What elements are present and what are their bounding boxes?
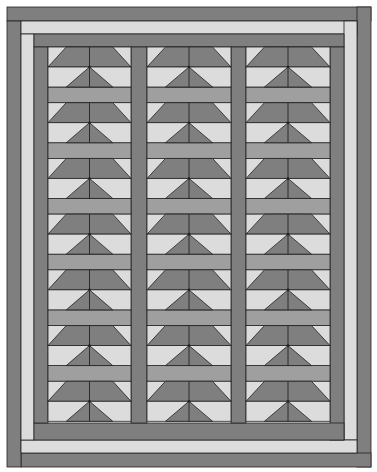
tree-seam-point [287, 121, 290, 124]
vertical-sashing [131, 47, 147, 423]
tree-seam-point [188, 121, 191, 124]
tree-seam-point [88, 344, 91, 347]
tree-seam-point [88, 66, 91, 69]
tree-seam-point [188, 400, 191, 403]
horizontal-sashing-strip [147, 143, 231, 159]
tree-seam-point [287, 344, 290, 347]
horizontal-sashing-strip [147, 198, 231, 214]
horizontal-sashing-strip [48, 310, 131, 326]
outer-border-bottom [21, 453, 371, 467]
horizontal-sashing-strip [246, 143, 330, 159]
horizontal-sashing-strip [246, 310, 330, 326]
outer-border-top [7, 7, 371, 21]
vertical-sashing [231, 47, 246, 423]
tree-seam-point [287, 233, 290, 236]
tree-seam-point [188, 344, 191, 347]
horizontal-sashing-strip [246, 254, 330, 270]
horizontal-sashing-strip [48, 87, 131, 103]
horizontal-sashing-strip [48, 366, 131, 382]
horizontal-sashing-strip [246, 87, 330, 103]
tree-seam-point [188, 233, 191, 236]
tree-seam-point [287, 289, 290, 292]
outer-border-right [357, 7, 371, 467]
inner-border-bottom [34, 423, 344, 440]
tree-seam-point [287, 400, 290, 403]
inner-border-right [330, 47, 344, 440]
horizontal-sashing-strip [147, 87, 231, 103]
quilt-blocks [48, 47, 330, 421]
tree-seam-point [188, 66, 191, 69]
middle-border-bottom [21, 440, 357, 453]
horizontal-sashing-strip [246, 198, 330, 214]
horizontal-sashing-strip [48, 198, 131, 214]
quilt-diagram [0, 0, 377, 472]
outer-border-left [7, 21, 21, 467]
inner-border-left [34, 47, 48, 423]
horizontal-sashing-strip [246, 366, 330, 382]
middle-border-left [21, 34, 34, 440]
tree-seam-point [188, 177, 191, 180]
tree-seam-point [88, 289, 91, 292]
tree-seam-point [188, 289, 191, 292]
tree-seam-point [88, 177, 91, 180]
middle-border-right [344, 21, 357, 440]
horizontal-sashing-strip [48, 143, 131, 159]
middle-border-top [21, 21, 357, 34]
tree-seam-point [88, 121, 91, 124]
horizontal-sashing-strip [48, 254, 131, 270]
tree-seam-point [287, 177, 290, 180]
inner-border-top [34, 34, 344, 47]
horizontal-sashing-strip [147, 254, 231, 270]
horizontal-sashing-strip [147, 366, 231, 382]
tree-seam-point [88, 400, 91, 403]
tree-seam-point [88, 233, 91, 236]
tree-seam-point [287, 66, 290, 69]
horizontal-sashing-strip [147, 310, 231, 326]
